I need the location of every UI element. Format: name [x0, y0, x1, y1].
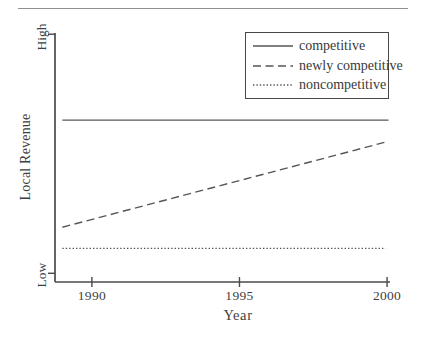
- legend-label: newly competitive: [299, 58, 403, 74]
- legend-row: noncompetitive: [253, 76, 388, 94]
- x-axis-title: Year: [223, 307, 252, 324]
- x-tick-label: 2000: [373, 288, 401, 304]
- x-tick-label: 1995: [225, 288, 253, 304]
- figure-local-revenue-chart: Local Revenue High Low 1990 1995 2000 Ye…: [0, 0, 424, 342]
- legend-sample-solid-line: [253, 44, 293, 48]
- legend-sample-dotted-line: [253, 83, 293, 87]
- plot-lines: [62, 120, 388, 248]
- series-line-newly-competitive: [62, 141, 388, 227]
- legend-row: competitive: [253, 37, 388, 55]
- x-tick-label: 1990: [78, 288, 106, 304]
- y-tick-label-high: High: [34, 24, 50, 51]
- y-axis-title: Local Revenue: [18, 114, 34, 201]
- legend-row: newly competitive: [253, 57, 388, 75]
- legend-sample-dashed-line: [253, 64, 293, 68]
- legend-label: noncompetitive: [299, 77, 386, 93]
- legend-box: competitive newly competitive noncompeti…: [245, 32, 389, 99]
- y-tick-label-low: Low: [34, 263, 50, 288]
- legend-label: competitive: [299, 38, 365, 54]
